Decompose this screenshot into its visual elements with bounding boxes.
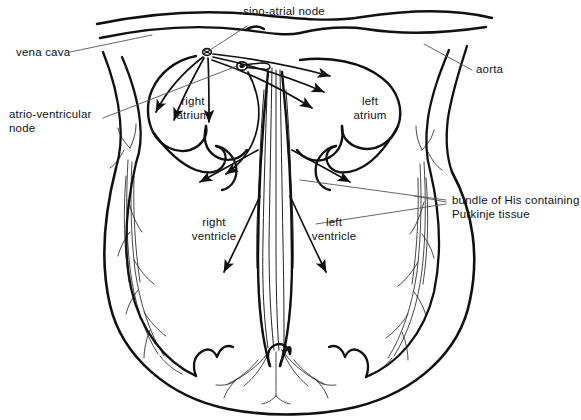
label-aorta: aorta (476, 63, 503, 77)
label-left-atrium-line2: atrium (345, 109, 395, 123)
leader-vena-cava (70, 35, 152, 52)
heart-conduction-diagram: sino-atrial node vena cava atrio-ventric… (0, 0, 581, 420)
label-atrio-ventricular-node-line2: node (9, 122, 35, 136)
label-left-atrium-line1: left (345, 95, 395, 109)
left-ventricle-inner-wall (329, 170, 439, 377)
label-bundle-of-his-line1: bundle of His containing (452, 194, 580, 208)
tricuspid-valve-leaflets (153, 132, 236, 190)
label-right-atrium-line1: right (168, 95, 218, 109)
vena-cava-outline (103, 52, 141, 168)
label-vena-cava: vena cava (16, 46, 70, 60)
bundle-of-his-fibers (257, 68, 294, 350)
leader-aorta (424, 44, 472, 70)
label-right-ventricle-line2: ventricle (186, 230, 242, 244)
left-wall-purkinje-network (370, 126, 442, 376)
right-ventricle-inner-wall (126, 163, 233, 376)
leader-bundle-of-his-septum (300, 180, 446, 200)
label-right-atrium-line2: atrium (168, 109, 218, 123)
label-sino-atrial-node: sino-atrial node (243, 5, 325, 19)
purkinje-apex-branches (216, 350, 336, 404)
aorta-outline (426, 46, 467, 172)
label-atrio-ventricular-node-line1: atrio-ventricular (9, 108, 92, 122)
label-left-ventricle-line1: left (306, 216, 362, 230)
label-bundle-of-his-line2: Purkinje tissue (452, 208, 530, 222)
label-right-ventricle-line1: right (186, 216, 242, 230)
leader-sino-atrial-node (210, 26, 247, 50)
label-left-ventricle-line2: ventricle (306, 230, 362, 244)
